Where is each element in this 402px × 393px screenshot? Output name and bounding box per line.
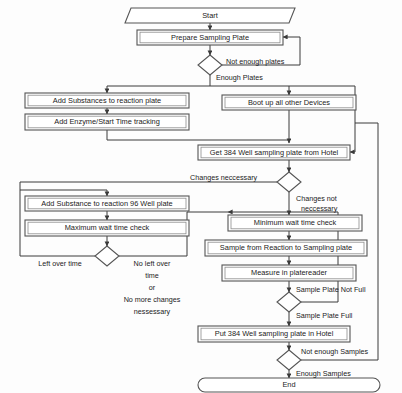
node-add-substances-reaction-plate-label: Add Substances to reaction plate <box>53 96 161 105</box>
node-boot-up-devices[interactable]: Boot up all other Devices <box>222 95 356 110</box>
node-end-label: End <box>282 380 295 389</box>
edge-label-changes-not-necessary-1: Changes not <box>296 194 337 203</box>
node-measure-platereader[interactable]: Measure in platereader <box>222 265 356 281</box>
edge-label-sample-plate-full: Sample Plate Full <box>296 311 353 320</box>
edge-changes-necessary-to-add96 <box>20 190 107 196</box>
node-add-enzyme-start-time[interactable]: Add Enzyme/Start Time tracking <box>25 114 189 130</box>
flowchart-canvas: Start Prepare Sampling Plate Add Substan… <box>0 0 402 393</box>
edge-label-no-left-over-1: No left over <box>134 259 171 268</box>
edge-label-enough-samples: Enough Samples <box>296 369 351 378</box>
node-maximum-wait-time-check[interactable]: Maximum wait time check <box>25 220 189 236</box>
node-minimum-wait-time-check-label: Minimum wait time check <box>254 218 337 227</box>
node-add-substance-96-well[interactable]: Add Substance to reaction 96 Well plate <box>25 196 189 211</box>
node-start[interactable]: Start <box>125 8 295 23</box>
edge-label-no-left-over-2: time <box>145 271 159 280</box>
node-sample-from-reaction[interactable]: Sample from Reaction to Sampling plate <box>205 240 367 256</box>
node-boot-up-devices-label: Boot up all other Devices <box>248 98 330 107</box>
node-put-384-plate-hotel-label: Put 384 Well sampling plate in Hotel <box>215 329 334 338</box>
node-prepare-sampling-plate-label: Prepare Sampling Plate <box>171 33 249 42</box>
edge-label-sample-plate-not-full: Sample Plate Not Full <box>296 285 366 294</box>
edge-label-no-left-over-5: nessessary <box>134 307 171 316</box>
node-measure-platereader-label: Measure in platereader <box>251 268 328 277</box>
node-decision-changes[interactable] <box>277 172 301 192</box>
node-decision-samples[interactable] <box>277 350 301 370</box>
node-maximum-wait-time-check-label: Maximum wait time check <box>65 223 150 232</box>
edge-label-no-left-over-3: or <box>149 283 156 292</box>
edge-label-no-left-over-4: No more changes <box>124 295 181 304</box>
node-decision-plate-full[interactable] <box>277 292 301 312</box>
node-end[interactable]: End <box>198 378 380 392</box>
node-get-384-plate-label: Get 384 Well sampling plate from Hotel <box>210 148 339 157</box>
edge-label-enough-plates: Enough Plates <box>216 73 263 82</box>
node-add-substance-96-well-label: Add Substance to reaction 96 Well plate <box>41 199 172 208</box>
node-decision-left-over-time[interactable] <box>95 246 119 266</box>
node-put-384-plate-hotel[interactable]: Put 384 Well sampling plate in Hotel <box>198 326 350 342</box>
flowchart-svg: Start Prepare Sampling Plate Add Substan… <box>0 0 402 393</box>
edge-label-changes-not-necessary-2: neccessary <box>301 204 338 213</box>
node-add-substances-reaction-plate[interactable]: Add Substances to reaction plate <box>25 93 189 108</box>
edge-changes-necessary-left <box>20 182 277 190</box>
edge-label-left-over-time: Left over time <box>38 259 82 268</box>
node-sample-from-reaction-label: Sample from Reaction to Sampling plate <box>220 243 352 252</box>
edge-label-not-enough-samples: Not enough Samples <box>301 347 369 356</box>
node-get-384-plate[interactable]: Get 384 Well sampling plate from Hotel <box>198 145 350 160</box>
edge-label-not-enough-plates: Not enough plates <box>226 57 285 66</box>
edge-label-changes-necessary: Changes neccessary <box>190 173 258 182</box>
edge-right-return-to-get384 <box>350 123 355 152</box>
edge-addenzyme-join <box>107 130 289 140</box>
node-add-enzyme-start-time-label: Add Enzyme/Start Time tracking <box>54 117 160 126</box>
node-start-label: Start <box>202 11 218 20</box>
node-prepare-sampling-plate[interactable]: Prepare Sampling Plate <box>137 30 283 45</box>
node-minimum-wait-time-check[interactable]: Minimum wait time check <box>228 215 362 231</box>
